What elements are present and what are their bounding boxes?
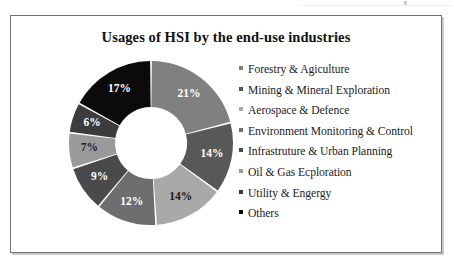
scan-artifact-speck	[404, 1, 407, 5]
legend-item[interactable]: Others	[239, 207, 439, 228]
page-title: Usages of HSI by the end-use industries	[11, 29, 441, 46]
legend-item-label: Others	[248, 207, 279, 220]
legend-item-label: Forestry & Agiculture	[248, 63, 349, 76]
legend-item[interactable]: Infrastruture & Urban Planning	[239, 145, 439, 166]
donut-slice-label: 6%	[83, 116, 100, 128]
legend-swatch-icon	[239, 128, 243, 132]
donut-slice-label: 14%	[200, 147, 223, 159]
legend-item-label: Mining & Mineral Exploration	[248, 84, 390, 97]
donut-slice-label: 14%	[169, 190, 192, 202]
legend-swatch-icon	[239, 107, 243, 111]
legend-item[interactable]: Environment Monitoring & Control	[239, 125, 439, 146]
scan-artifact-line	[300, 5, 452, 6]
legend-item-label: Oil & Gas Ecploration	[248, 166, 352, 179]
donut-chart-svg: 21%14%14%12%9%7%6%17%	[67, 59, 235, 227]
legend-swatch-icon	[239, 190, 243, 194]
legend-item-label: Environment Monitoring & Control	[248, 125, 413, 138]
legend-item[interactable]: Oil & Gas Ecploration	[239, 166, 439, 187]
donut-slice-label: 12%	[120, 195, 143, 207]
donut-slice-label: 7%	[81, 141, 98, 153]
legend-item-label: Infrastruture & Urban Planning	[248, 145, 392, 158]
legend-item[interactable]: Mining & Mineral Exploration	[239, 84, 439, 105]
donut-slice-label: 17%	[108, 82, 131, 94]
legend-swatch-icon	[239, 66, 243, 70]
legend-swatch-icon	[239, 210, 243, 214]
donut-slice-label: 21%	[178, 87, 201, 99]
legend-item[interactable]: Utility & Engergy	[239, 187, 439, 208]
chart-legend: Forestry & AgicultureMining & Mineral Ex…	[239, 63, 439, 228]
figure-frame: Usages of HSI by the end-use industries …	[10, 15, 442, 253]
legend-swatch-icon	[239, 87, 243, 91]
donut-chart: 21%14%14%12%9%7%6%17%	[67, 59, 235, 227]
legend-item[interactable]: Aerospace & Defence	[239, 104, 439, 125]
donut-slice-label: 9%	[91, 170, 108, 182]
legend-item[interactable]: Forestry & Agiculture	[239, 63, 439, 84]
legend-swatch-icon	[239, 148, 243, 152]
legend-swatch-icon	[239, 169, 243, 173]
legend-item-label: Utility & Engergy	[248, 187, 331, 200]
legend-item-label: Aerospace & Defence	[248, 104, 349, 117]
